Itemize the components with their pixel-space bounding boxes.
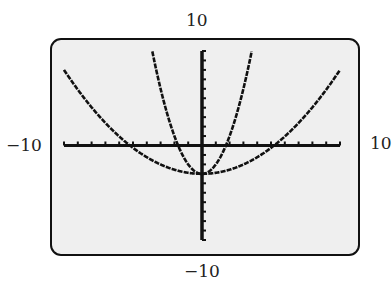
axes [64, 51, 340, 240]
xmin-label: −10 [6, 137, 42, 154]
ymax-label: 10 [186, 12, 208, 29]
ymin-label: −10 [184, 263, 220, 280]
xmax-label: 10 [370, 135, 392, 152]
graphing-calculator-figure: 10 −10 −10 10 [0, 0, 392, 286]
plot-area [0, 0, 392, 286]
